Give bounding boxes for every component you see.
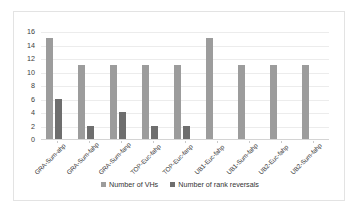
- x-axis-tick: [217, 141, 218, 143]
- bar-group: [41, 32, 73, 139]
- bar-group: [265, 32, 297, 139]
- bar-group: [105, 32, 137, 139]
- bar-group: [201, 32, 233, 139]
- y-axis-tick-label: 4: [31, 109, 35, 117]
- bar: [87, 126, 94, 140]
- bar: [302, 65, 309, 139]
- x-axis-line: [41, 139, 329, 140]
- bar-group: [137, 32, 169, 139]
- x-axis-tick: [153, 141, 154, 143]
- x-axis-tick-label: UB1-Euc-fahp: [193, 143, 225, 175]
- bar: [238, 65, 245, 139]
- legend-swatch-icon: [101, 182, 106, 187]
- chart-frame: 1614121086420 GRA-Sum-ahpGRA-Sum-fahpGRA…: [13, 11, 345, 201]
- bar: [46, 38, 53, 139]
- x-axis-tick: [249, 141, 250, 143]
- bar-group: [73, 32, 105, 139]
- y-axis-tick-label: 14: [27, 42, 35, 50]
- y-axis-tick-label: 8: [31, 82, 35, 90]
- legend-item[interactable]: Number of VHs: [101, 180, 158, 189]
- bar: [78, 65, 85, 139]
- y-axis-tick-label: 12: [27, 55, 35, 63]
- bars-layer: [41, 32, 329, 140]
- bar: [110, 65, 117, 139]
- bar: [270, 65, 277, 139]
- bar: [183, 126, 190, 140]
- bar-group: [297, 32, 329, 139]
- bar-group: [169, 32, 201, 139]
- y-axis-tick-label: 0: [31, 136, 35, 144]
- chart-legend: Number of VHsNumber of rank reversals: [14, 180, 346, 189]
- y-axis-tick-label: 6: [31, 96, 35, 104]
- y-axis: 1614121086420: [14, 26, 38, 146]
- bar: [119, 112, 126, 139]
- bar-group: [233, 32, 265, 139]
- x-axis-tick: [313, 141, 314, 143]
- x-axis-tick-label: UB2-Sum-fahp: [289, 142, 323, 176]
- legend-label: Number of rank reversals: [178, 180, 259, 189]
- y-axis-tick-label: 16: [27, 28, 35, 36]
- x-axis-tick-label: GRA-Sum-ahp: [33, 142, 67, 176]
- bar: [206, 38, 213, 139]
- x-axis-tick: [57, 141, 58, 143]
- x-axis-tick: [185, 141, 186, 143]
- x-axis-tick-label: GRA-Sum-fahp: [65, 141, 100, 176]
- bar: [142, 65, 149, 139]
- y-axis-tick-label: 10: [27, 69, 35, 77]
- x-axis-tick: [89, 141, 90, 143]
- bar: [151, 126, 158, 140]
- x-axis-tick-label: GRA-Sum-fanp: [97, 141, 132, 176]
- x-axis-tick-label: TOP-Euc-fanp: [161, 143, 194, 176]
- x-axis-tick-label: UB2-Euc-fahp: [257, 143, 289, 175]
- legend-label: Number of VHs: [109, 180, 158, 189]
- legend-swatch-icon: [170, 182, 175, 187]
- bar: [55, 99, 62, 140]
- x-axis-tick: [281, 141, 282, 143]
- x-axis-tick-label: UB1-Sum-fahp: [225, 142, 259, 176]
- y-axis-tick-label: 2: [31, 123, 35, 131]
- plot-area: [41, 32, 329, 140]
- x-axis-tick: [121, 141, 122, 143]
- legend-item[interactable]: Number of rank reversals: [170, 180, 259, 189]
- bar: [174, 65, 181, 139]
- x-axis-tick-label: TOP-Euc-fahp: [129, 143, 162, 176]
